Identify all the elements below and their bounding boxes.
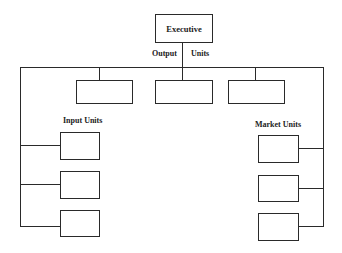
output-unit-box-2 [155,80,213,104]
input-unit-1-connector [20,145,60,146]
input-unit-box-2 [60,171,100,199]
market-unit-2-connector [298,188,324,189]
market-unit-1-connector [298,148,324,149]
market-unit-box-1 [258,135,299,163]
market-unit-box-2 [258,175,299,202]
left-spine-line [20,67,21,227]
output-unit-box-1 [76,80,133,104]
output-unit-1-connector [99,67,100,80]
input-unit-3-connector [20,226,60,227]
units-label: Units [191,49,209,58]
output-unit-3-connector [255,67,256,80]
executive-label: Executive [166,24,201,34]
output-unit-box-3 [228,80,285,104]
input-unit-box-1 [60,132,100,160]
input-units-label: Input Units [63,116,102,125]
executive-box: Executive [155,14,213,43]
input-unit-2-connector [20,184,60,185]
market-unit-3-connector [298,226,324,227]
executive-trunk-line [182,43,183,80]
main-bus-line [20,67,324,68]
market-units-label: Market Units [255,120,301,129]
market-unit-box-3 [258,213,299,241]
right-spine-line [323,67,324,227]
output-label: Output [152,49,177,58]
input-unit-box-3 [60,210,100,237]
